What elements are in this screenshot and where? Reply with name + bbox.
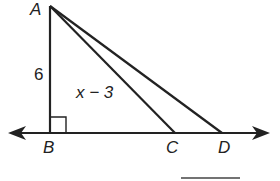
right-angle-marker: [50, 117, 66, 133]
side-AB-length: 6: [34, 65, 43, 84]
triangle-diagram: A B C D 6 x − 3: [0, 0, 280, 181]
segment-AD: [50, 6, 222, 133]
label-A: A: [29, 0, 41, 19]
label-C: C: [166, 138, 179, 157]
label-B: B: [43, 138, 54, 157]
expression-label: x − 3: [75, 83, 114, 102]
label-D: D: [218, 138, 230, 157]
segment-AC: [50, 6, 175, 133]
